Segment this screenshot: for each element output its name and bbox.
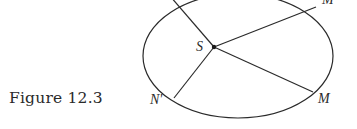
label-s: S [196, 39, 203, 55]
ellipse-diagram [0, 0, 357, 129]
segment-s-n-prime [174, 47, 214, 98]
label-m: M [318, 91, 330, 107]
segment-s-m [214, 47, 313, 92]
label-m-prime: M' [322, 0, 337, 8]
figure-caption: Figure 12.3 [9, 89, 103, 107]
label-n-prime: N' [150, 92, 162, 108]
segment-s-n [170, 0, 214, 47]
orbit-ellipse [143, 0, 333, 118]
segment-s-m-prime [214, 7, 316, 47]
focus-point [212, 45, 216, 49]
